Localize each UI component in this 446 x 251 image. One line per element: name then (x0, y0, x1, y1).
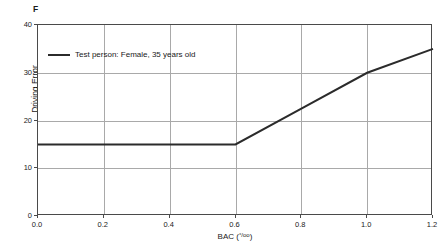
x-tick-mark (366, 215, 367, 218)
x-axis-title-close: ) (250, 232, 253, 241)
panel-marker-label: F (33, 4, 38, 14)
y-tick-label: 10 (6, 163, 32, 172)
x-axis-title-permille-unit: °/oo (239, 232, 250, 238)
x-axis-title: BAC (°/oo) (155, 232, 315, 241)
x-tick-mark (432, 215, 433, 218)
series-line-female-35 (38, 49, 433, 145)
x-tick-mark (169, 215, 170, 218)
x-tick-label: 0.4 (154, 220, 184, 229)
x-tick-mark (235, 215, 236, 218)
x-axis-title-base: BAC ( (218, 232, 239, 241)
y-tick-label: 0 (6, 211, 32, 220)
y-tick-mark (34, 120, 37, 121)
y-tick-mark (34, 24, 37, 25)
x-tick-mark (103, 215, 104, 218)
x-tick-label: 0.2 (88, 220, 118, 229)
x-tick-label: 0.0 (22, 220, 52, 229)
x-tick-label: 1.2 (417, 220, 446, 229)
y-tick-mark (34, 167, 37, 168)
chart-figure: F Driving Error BAC (°/oo) 010203040 0.0… (0, 0, 446, 251)
legend-line-swatch (48, 54, 70, 56)
x-tick-mark (37, 215, 38, 218)
y-tick-label: 40 (6, 20, 32, 29)
x-tick-mark (300, 215, 301, 218)
x-tick-label: 0.6 (220, 220, 250, 229)
legend-entry-label: Test person: Female, 35 years old (75, 50, 196, 59)
x-tick-label: 1.0 (351, 220, 381, 229)
y-tick-label: 30 (6, 68, 32, 77)
x-tick-label: 0.8 (285, 220, 315, 229)
chart-legend: Test person: Female, 35 years old (48, 50, 196, 59)
y-tick-label: 20 (6, 116, 32, 125)
y-tick-mark (34, 72, 37, 73)
